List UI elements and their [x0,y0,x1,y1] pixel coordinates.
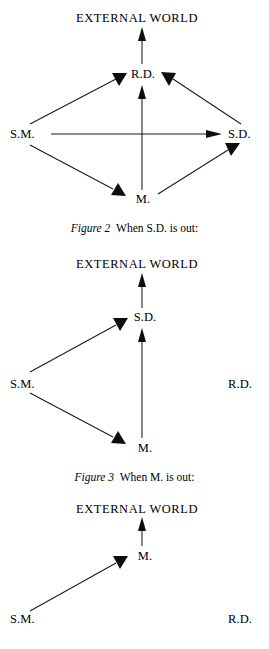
edge-m-to-external-world [138,517,146,546]
edge-sm-to-rd [30,73,127,124]
edge-sm-to-m [30,145,126,196]
figure-1-node-rd: R.D. [131,68,155,80]
figure-3-node-m: M. [138,550,152,562]
figure-3-caption-label: Figure 3 [75,471,115,483]
figure-2-node-sm: S.M. [10,378,35,390]
edge-m-to-sd [158,143,240,194]
figure-3-node-rd: R.D. [228,613,252,625]
figure-2-node-sd: S.D. [134,311,157,323]
figure-2-node-rd: R.D. [228,378,252,390]
edge-sm-to-sd [30,318,128,372]
edge-sm-to-m [30,556,128,611]
figure-1-node-sm: S.M. [10,128,35,140]
figure-2-diagram [0,246,269,465]
edge-sm-to-sd [51,130,222,138]
edge-sm-to-m [30,393,126,444]
figure-2-caption-text: When S.D. is out: [116,222,198,234]
figure-3-caption: Figure 3 When M. is out: [0,470,269,484]
edge-sd-to-external-world [138,273,146,308]
figure-2-node-m: M. [138,442,152,454]
figure-3-node-sm: S.M. [10,613,35,625]
figure-2-block: EXTERNAL WORLD S.D. S.M. R.D. M. [0,246,269,465]
figure-1-block: EXTERNAL WORLD [0,0,269,216]
figure-1-diagram [0,0,269,216]
figure-3-caption-text: When M. is out: [120,471,195,483]
figure-3-diagram [0,496,269,649]
figure-1-node-m: M. [136,193,150,205]
figure-1-node-sd: S.D. [228,128,251,140]
edge-sd-to-rd [161,72,241,124]
figure-2-caption-label: Figure 2 [71,222,111,234]
figure-3-block: EXTERNAL WORLD M. S.M. R.D. [0,496,269,649]
edge-m-to-sd [138,328,146,438]
figure-2-caption: Figure 2 When S.D. is out: [0,221,269,235]
edge-rd-to-external-world [138,27,146,64]
edge-m-to-rd [138,85,146,190]
